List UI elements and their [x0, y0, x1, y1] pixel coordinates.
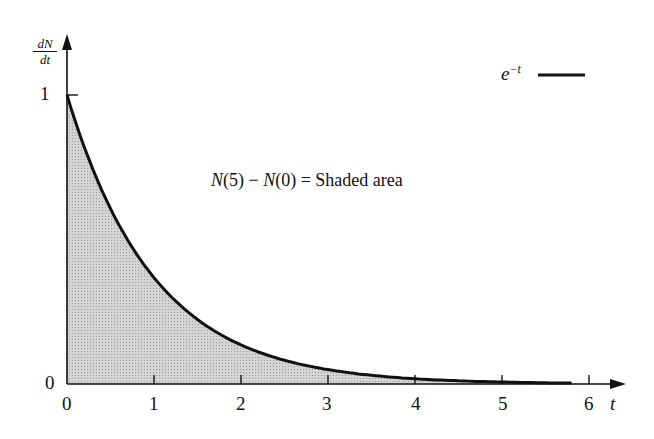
legend: e−t: [501, 62, 521, 85]
y-tick-label-0: 0: [45, 372, 55, 394]
y-axis-arrow-icon: [62, 34, 72, 50]
x-tick-label-4: 4: [411, 393, 421, 415]
x-axis-label: t: [610, 393, 615, 415]
annotation-part4: (0) = Shaded area: [275, 170, 403, 190]
y-label-denominator: dt: [33, 52, 57, 67]
x-tick-label-5: 5: [498, 393, 508, 415]
y-label-numerator: dN: [33, 36, 57, 52]
chart-canvas: [0, 0, 654, 439]
x-tick-label-2: 2: [236, 393, 246, 415]
annotation-n1: N: [211, 170, 223, 190]
x-tick-label-0: 0: [62, 393, 72, 415]
y-tick-label-1: 1: [40, 83, 50, 105]
legend-exponent: −t: [509, 62, 520, 76]
x-axis-arrow-icon: [610, 379, 626, 389]
y-axis-label: dN dt: [33, 36, 57, 67]
annotation-part2: (5) −: [223, 170, 263, 190]
annotation: N(5) − N(0) = Shaded area: [211, 170, 403, 191]
x-tick-label-6: 6: [584, 393, 594, 415]
x-tick-label-3: 3: [322, 393, 332, 415]
x-tick-label-1: 1: [149, 393, 159, 415]
annotation-n2: N: [263, 170, 275, 190]
shaded-area: [67, 95, 572, 384]
